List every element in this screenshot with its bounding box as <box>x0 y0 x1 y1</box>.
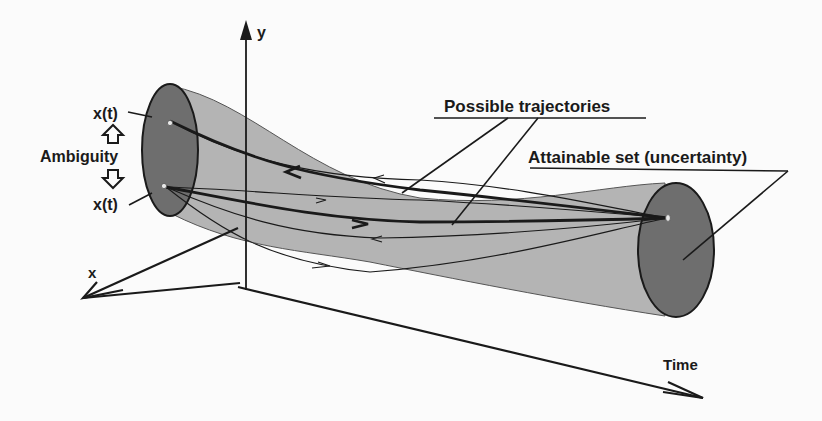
ambiguity-up-arrow-icon <box>103 125 123 143</box>
state-point-bottom <box>161 183 166 188</box>
possible-trajectories-label: Possible trajectories <box>444 97 610 116</box>
y-axis-label: y <box>257 24 266 41</box>
state-point-top <box>167 120 172 125</box>
time-axis-label: Time <box>663 356 698 373</box>
final-state-point <box>666 215 671 222</box>
y-axis-arrowhead-icon <box>240 20 252 40</box>
initial-set-ellipse <box>142 84 198 216</box>
final-set-ellipse <box>638 183 714 317</box>
x-axis-line <box>83 228 238 298</box>
attainable-set-label: Attainable set (uncertainty) <box>528 148 747 167</box>
ambiguity-down-arrow-icon <box>103 170 123 188</box>
trajectory-diagram: y x Time Possible trajectories Attainabl… <box>0 0 822 421</box>
ambiguity-label: Ambiguity <box>40 148 118 165</box>
x-axis-label: x <box>88 264 97 281</box>
state-label-bottom: x(t) <box>93 196 118 213</box>
diagram-canvas: y x Time Possible trajectories Attainabl… <box>0 0 822 421</box>
x-axis <box>83 283 240 298</box>
state-label-top: x(t) <box>93 105 118 122</box>
